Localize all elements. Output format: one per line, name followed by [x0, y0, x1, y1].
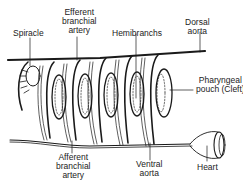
label-pharyngeal-pouch: Pharyngeal pouch (Cleft): [196, 76, 243, 94]
dorsal-aorta-line: [8, 51, 205, 60]
label-ventral-aorta: Ventral aorta: [136, 160, 162, 178]
label-dorsal-aorta: Dorsal aorta: [185, 18, 210, 36]
gill-circulation-diagram: Spiracle Efferent branchial artery Hemib…: [0, 0, 243, 183]
label-efferent-branchial-artery: Efferent branchial artery: [62, 8, 97, 35]
label-heart: Heart: [197, 163, 218, 172]
label-afferent-branchial-artery: Afferent branchial artery: [56, 153, 91, 180]
label-hemibranchs: Hemibranchs: [112, 29, 162, 38]
label-spiracle: Spiracle: [13, 29, 44, 38]
